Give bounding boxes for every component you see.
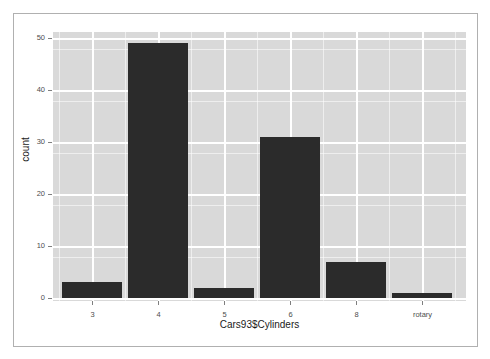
x-tick-mark-8 [356, 301, 357, 305]
y-tick-mark-40 [48, 90, 52, 91]
gridline-minor-v-5 [323, 32, 324, 301]
bar-6[interactable] [260, 137, 320, 298]
x-tick-label-rotary: rotary [413, 310, 432, 319]
gridline-minor-v-4 [257, 32, 258, 301]
bar-4[interactable] [128, 43, 188, 298]
gridline-major-v-5 [224, 32, 226, 301]
x-tick-label-4: 4 [156, 310, 160, 319]
y-tick-mark-20 [48, 194, 52, 195]
y-tick-mark-0 [48, 298, 52, 299]
gridline-major-h-0 [53, 298, 466, 300]
y-tick-label-0: 0 [19, 294, 45, 302]
figure-frame: 50 40 30 20 10 0 3 4 5 6 8 [13, 13, 478, 347]
x-tick-mark-3 [92, 301, 93, 305]
gridline-minor-v-2 [125, 32, 126, 301]
gridline-minor-h-45 [53, 49, 466, 50]
gridline-minor-v-3 [191, 32, 192, 301]
y-axis-title: count [20, 90, 31, 210]
x-tick-label-3: 3 [90, 310, 94, 319]
gridline-minor-v-7 [455, 32, 456, 301]
x-tick-mark-rotary [422, 301, 423, 305]
y-tick-mark-10 [48, 246, 52, 247]
x-tick-mark-4 [158, 301, 159, 305]
x-tick-mark-6 [290, 301, 291, 305]
gridline-minor-v-6 [389, 32, 390, 301]
bar-3[interactable] [62, 282, 122, 298]
x-tick-label-6: 6 [288, 310, 292, 319]
x-axis-title: Cars93$Cylinders [53, 319, 466, 330]
bar-5[interactable] [194, 288, 254, 298]
x-tick-label-8: 8 [354, 310, 358, 319]
gridline-major-v-3 [92, 32, 94, 301]
plot-area: 50 40 30 20 10 0 3 4 5 6 8 [14, 14, 477, 346]
gridline-major-h-50 [53, 38, 466, 40]
y-tick-mark-50 [48, 38, 52, 39]
gridline-minor-v-1 [59, 32, 60, 301]
bar-rotary[interactable] [392, 293, 452, 298]
chart-panel [53, 32, 466, 301]
gridline-minor-h-35 [53, 101, 466, 102]
x-tick-label-5: 5 [222, 310, 226, 319]
gridline-major-v-rotary [422, 32, 424, 301]
y-tick-label-10: 10 [19, 242, 45, 250]
bar-8[interactable] [326, 262, 386, 298]
x-tick-mark-5 [224, 301, 225, 305]
y-tick-label-50: 50 [19, 34, 45, 42]
gridline-major-h-40 [53, 90, 466, 92]
y-tick-mark-30 [48, 142, 52, 143]
